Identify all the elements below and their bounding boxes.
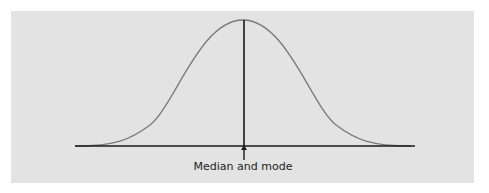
bell-curve (75, 20, 411, 146)
median-mode-label: Median and mode (183, 160, 303, 173)
